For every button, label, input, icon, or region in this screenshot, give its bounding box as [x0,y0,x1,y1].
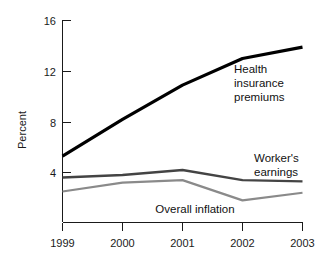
annotation-overall-inflation: Overall inflation [155,203,234,215]
chart-background [0,0,330,263]
y-tick-label-16: 16 [44,15,56,27]
chart-page: 16 12 8 4 Percent 1999 2000 2001 2002 20… [0,0,330,263]
y-axis-title: Percent [16,111,28,149]
annotation-health-line-2: insurance [234,77,284,89]
x-tick-label-2002: 2002 [230,237,254,249]
annotation-worker-line-1: Worker's [254,152,299,164]
line-chart: 16 12 8 4 Percent 1999 2000 2001 2002 20… [0,0,330,263]
x-tick-label-2001: 2001 [170,237,194,249]
annotation-worker-line-2: earnings [254,166,298,178]
y-tick-label-4: 4 [50,167,56,179]
y-tick-label-12: 12 [44,66,56,78]
annotation-health-line-1: Health [234,63,267,75]
y-tick-label-8: 8 [50,117,56,129]
x-tick-label-1999: 1999 [50,237,74,249]
x-tick-label-2000: 2000 [110,237,134,249]
annotation-health-line-3: premiums [234,91,285,103]
x-tick-label-2003: 2003 [290,237,314,249]
annotation-inflation-line-1: Overall inflation [155,203,234,215]
